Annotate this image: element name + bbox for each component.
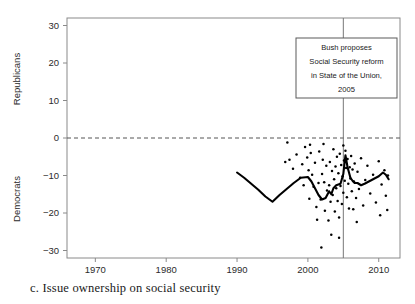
data-point (380, 183, 383, 186)
y-axis-label-republicans: Republicans (11, 53, 22, 106)
data-point (377, 160, 380, 163)
data-point (375, 201, 378, 204)
data-point (351, 168, 354, 171)
data-point (340, 164, 343, 167)
data-point (320, 246, 323, 249)
data-point (315, 206, 318, 209)
annotation-line-4: 2005 (338, 85, 355, 94)
data-point (336, 156, 339, 159)
data-point (307, 169, 310, 172)
data-point (338, 237, 341, 240)
data-point (379, 214, 382, 217)
data-point (329, 201, 332, 204)
data-point (346, 196, 349, 199)
data-point (362, 204, 365, 207)
data-point (295, 153, 298, 156)
x-tick-label: 1980 (156, 264, 177, 275)
figure-caption: c. Issue ownership on social security (30, 281, 221, 296)
data-point (336, 200, 339, 203)
data-point (330, 234, 333, 237)
data-point (385, 195, 388, 198)
data-point (356, 171, 359, 174)
data-point (329, 161, 332, 164)
data-point (309, 152, 312, 155)
data-point (302, 184, 305, 187)
data-point (332, 148, 335, 151)
chart-svg: −30−20−100102030 19701980199020002010 Bu… (0, 0, 415, 304)
data-point (292, 168, 295, 171)
data-point (364, 179, 367, 182)
data-point (322, 143, 325, 146)
data-point (323, 181, 326, 184)
data-point (338, 216, 341, 219)
figure-panel: −30−20−100102030 19701980199020002010 Bu… (0, 0, 415, 304)
data-point (366, 165, 369, 168)
data-point (372, 174, 375, 177)
data-point (301, 163, 304, 166)
data-point (309, 144, 312, 147)
y-tick-label: −10 (43, 170, 59, 181)
y-tick-label: −30 (43, 245, 59, 256)
annotation-line-3: in State of the Union, (311, 71, 382, 80)
data-point (325, 165, 328, 168)
y-tick-label: 20 (48, 57, 59, 68)
data-point (355, 197, 358, 200)
data-point (334, 165, 337, 168)
x-tick-label: 1990 (226, 264, 247, 275)
y-axis-label-democrats: Democrats (11, 176, 22, 222)
data-point (331, 170, 334, 173)
data-point (304, 146, 307, 149)
data-point (306, 156, 309, 159)
data-point (342, 192, 345, 195)
data-point (321, 173, 324, 176)
data-point (383, 169, 386, 172)
data-point (344, 150, 347, 153)
x-tick-label: 2010 (368, 264, 389, 275)
data-point (324, 210, 327, 213)
y-axis-ticks: −30−20−100102030 (43, 20, 67, 256)
y-tick-label: 30 (48, 20, 59, 31)
data-point (350, 155, 353, 158)
data-point (351, 190, 354, 193)
annotation-line-2: Social Security reform (309, 57, 383, 66)
data-point (318, 150, 321, 153)
y-tick-label: 10 (48, 95, 59, 106)
data-point (369, 192, 372, 195)
x-axis-ticks: 19701980199020002010 (85, 258, 390, 275)
data-point (286, 141, 289, 144)
data-point (341, 203, 344, 206)
data-point (311, 174, 314, 177)
x-tick-label: 2000 (297, 264, 318, 275)
data-point (356, 221, 359, 224)
data-point (348, 207, 351, 210)
data-point (328, 184, 331, 187)
data-point (317, 182, 320, 185)
data-point (316, 219, 319, 222)
data-point (334, 210, 337, 213)
data-point (308, 198, 311, 201)
annotation-line-1: Bush proposes (321, 43, 372, 52)
data-point (327, 219, 330, 222)
data-point (337, 172, 340, 175)
data-point (284, 161, 287, 164)
data-point (360, 157, 363, 160)
data-point (314, 162, 317, 165)
data-point (347, 183, 350, 186)
data-point (343, 180, 346, 183)
data-point (352, 208, 355, 211)
data-point (288, 159, 291, 162)
data-point (386, 209, 389, 212)
x-tick-label: 1970 (85, 264, 106, 275)
data-point (339, 153, 342, 156)
y-tick-label: 0 (54, 132, 59, 143)
y-tick-label: −20 (43, 207, 59, 218)
data-point (333, 178, 336, 181)
data-point (322, 159, 325, 162)
data-point (326, 189, 329, 192)
data-point (358, 188, 361, 191)
data-point (342, 144, 345, 147)
data-point (353, 162, 356, 165)
